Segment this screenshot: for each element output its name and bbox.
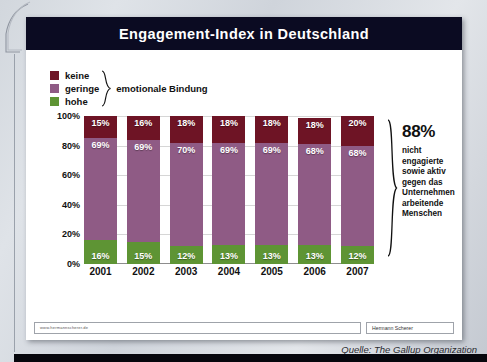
bar-segment-hohe-2005: 13% [255,245,288,264]
x-tick-2001: 2001 [84,266,117,277]
plot-area: 15% 69% 16% 16% 69% 15% [84,116,374,264]
legend-items: keine geringe hohe [50,70,99,107]
bar-segment-keine-2007: 20% [341,116,374,146]
slide-footer: www.hermannscherer.de Hermann Scherer [26,321,462,334]
page-title: Engagement-Index in Deutschland [119,26,369,42]
x-tick-2006: 2006 [298,266,331,277]
legend-label-keine: keine [65,70,89,81]
bar-label-geringe-2004: 69% [220,145,238,155]
x-tick-2007: 2007 [341,266,374,277]
bar-label-geringe-2002: 69% [134,142,152,152]
x-tick-2002: 2002 [127,266,160,277]
x-tick-2005: 2005 [255,266,288,277]
bar-label-hohe-2004: 13% [220,251,238,261]
bar-segment-hohe-2007: 12% [341,246,374,264]
bar-label-keine-2003: 18% [177,118,195,128]
y-tick-40: 40% [38,200,80,210]
bar-segment-geringe-2007: 68% [341,146,374,247]
bar-segment-hohe-2002: 15% [127,242,160,264]
y-axis: 100% 80% 60% 40% 20% 0% [38,116,80,264]
bar-label-geringe-2007: 68% [348,148,366,158]
y-tick-20: 20% [38,229,80,239]
bar-label-keine-2006: 18% [306,120,324,130]
annotation-text: 88% nicht engagierte sowie aktiv gegen d… [402,122,452,220]
bar-column-2007[interactable]: 20% 68% 12% [341,116,374,264]
x-tick-2003: 2003 [170,266,203,277]
bar-segment-geringe-2004: 69% [212,143,245,245]
bar-segment-geringe-2006: 68% [298,144,331,245]
bar-segment-hohe-2001: 16% [84,240,117,264]
bar-segment-hohe-2006: 13% [298,245,331,264]
footer-name-box[interactable]: Hermann Scherer [366,322,454,334]
bar-segment-keine-2004: 18% [212,116,245,143]
bar-label-hohe-2005: 13% [263,251,281,261]
y-tick-0: 0% [38,259,80,269]
bar-label-keine-2005: 18% [263,118,281,128]
legend-item-geringe: geringe [50,83,99,94]
bar-segment-keine-2002: 16% [127,116,160,140]
bar-label-geringe-2006: 68% [306,146,324,156]
bar-label-keine-2001: 15% [91,118,109,128]
bottom-dark-bar [14,354,487,362]
bar-segment-hohe-2003: 12% [170,246,203,264]
footer-url: www.hermannscherer.de [40,325,88,330]
bar-column-2005[interactable]: 18% 69% 13% [255,116,288,264]
bar-segment-hohe-2004: 13% [212,245,245,264]
legend-label-hohe: hohe [65,96,88,107]
bar-segment-keine-2006: 18% [298,118,331,145]
slide-title-bar: Engagement-Index in Deutschland [26,17,462,50]
bar-column-2001[interactable]: 15% 69% 16% [84,116,117,264]
bar-label-hohe-2002: 15% [134,251,152,261]
legend-item-keine: keine [50,70,99,81]
legend-swatch-hohe [50,97,59,106]
slide-body: keine geringe hohe emotionale Bindung 10… [26,50,462,340]
bar-segment-keine-2005: 18% [255,116,288,143]
footer-url-box[interactable]: www.hermannscherer.de [34,322,361,334]
bar-label-geringe-2001: 69% [91,140,109,150]
bar-segment-geringe-2003: 70% [170,143,203,247]
page-left-rule [14,54,15,352]
legend-swatch-geringe [50,84,59,93]
x-tick-2004: 2004 [212,266,245,277]
bar-column-2003[interactable]: 18% 70% 12% [170,116,203,264]
bar-segment-keine-2003: 18% [170,116,203,143]
footer-name: Hermann Scherer [372,325,413,331]
y-tick-100: 100% [38,111,80,121]
bar-segment-geringe-2005: 69% [255,143,288,245]
bar-column-2002[interactable]: 16% 69% 15% [127,116,160,264]
legend-group-label: emotionale Bindung [116,83,207,94]
y-tick-60: 60% [38,170,80,180]
x-axis: 2001 2002 2003 2004 2005 2006 2007 [84,266,374,277]
bar-label-hohe-2006: 13% [306,251,324,261]
chart-legend: keine geringe hohe emotionale Bindung [50,70,208,107]
legend-label-geringe: geringe [65,83,99,94]
bar-label-geringe-2003: 70% [177,145,195,155]
bar-column-2004[interactable]: 18% 69% 13% [212,116,245,264]
bar-label-hohe-2003: 12% [177,251,195,261]
bar-column-2006[interactable]: 18% 68% 13% [298,116,331,264]
legend-brace-icon [101,70,112,107]
bar-label-keine-2007: 20% [348,118,366,128]
y-tick-80: 80% [38,141,80,151]
slide: Engagement-Index in Deutschland keine ge… [26,17,462,340]
chart: 100% 80% 60% 40% 20% 0% 15% [38,116,450,291]
bar-label-keine-2004: 18% [220,118,238,128]
bar-segment-geringe-2002: 69% [127,140,160,242]
bar-group: 15% 69% 16% 16% 69% 15% [84,116,374,264]
bar-segment-geringe-2001: 69% [84,138,117,240]
annotation-big-value: 88% [402,122,452,142]
bar-label-hohe-2007: 12% [348,251,366,261]
bar-segment-keine-2001: 15% [84,116,117,138]
annotation-brace-icon [386,118,398,258]
legend-swatch-keine [50,71,59,80]
annotation-description: nicht engagierte sowie aktiv gegen das U… [402,146,452,220]
bar-label-geringe-2005: 69% [263,145,281,155]
legend-item-hohe: hohe [50,96,99,107]
bar-label-keine-2002: 16% [134,118,152,128]
bar-label-hohe-2001: 16% [91,251,109,261]
